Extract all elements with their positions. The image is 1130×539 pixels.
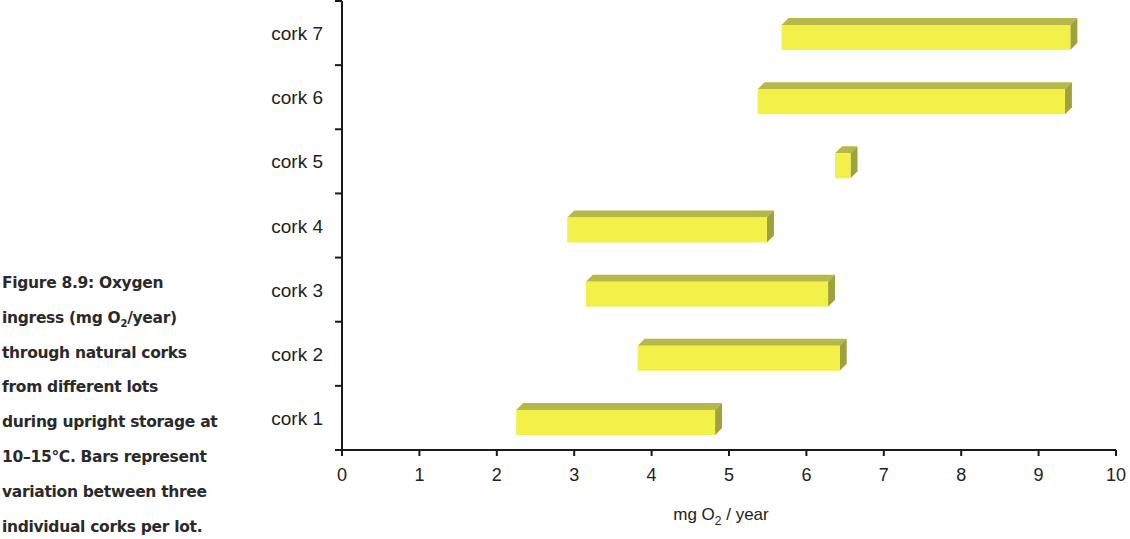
bar-cork-7 xyxy=(782,18,1078,50)
floating-bar-chart: 012345678910cork 1cork 2cork 3cork 4cork… xyxy=(0,0,1130,539)
x-tick-label: 3 xyxy=(569,465,579,485)
bar-front-face xyxy=(758,89,1065,114)
y-category-label: cork 1 xyxy=(271,408,323,429)
bar-cork-1 xyxy=(516,403,722,435)
bar-top-face xyxy=(586,275,835,282)
bar-front-face xyxy=(638,346,840,371)
bar-cork-4 xyxy=(567,211,774,243)
y-category-label: cork 7 xyxy=(271,23,323,44)
bar-cork-6 xyxy=(758,82,1072,114)
x-tick-label: 4 xyxy=(647,465,657,485)
x-tick-label: 7 xyxy=(879,465,889,485)
x-tick-label: 1 xyxy=(414,465,424,485)
bar-front-face xyxy=(782,25,1071,50)
x-tick-label: 5 xyxy=(724,465,734,485)
bar-top-face xyxy=(516,403,722,410)
y-category-label: cork 4 xyxy=(271,216,323,237)
x-tick-label: 10 xyxy=(1106,465,1126,485)
bar-top-face xyxy=(782,18,1078,25)
y-category-label: cork 3 xyxy=(271,280,323,301)
x-axis-title: mg O2 / year xyxy=(673,505,769,528)
bar-cork-3 xyxy=(586,275,835,307)
bar-cork-5 xyxy=(835,146,857,178)
x-tick-label: 8 xyxy=(956,465,966,485)
bar-top-face xyxy=(567,211,774,218)
y-category-label: cork 6 xyxy=(271,87,323,108)
x-tick-label: 2 xyxy=(492,465,502,485)
bar-front-face xyxy=(586,282,828,307)
y-category-label: cork 5 xyxy=(271,151,323,172)
x-tick-label: 0 xyxy=(337,465,347,485)
x-tick-label: 9 xyxy=(1034,465,1044,485)
x-tick-label: 6 xyxy=(801,465,811,485)
y-category-label: cork 2 xyxy=(271,344,323,365)
bar-cork-2 xyxy=(638,339,847,371)
bar-top-face xyxy=(638,339,847,346)
bars-layer xyxy=(516,18,1077,435)
bar-front-face xyxy=(835,153,850,178)
bar-front-face xyxy=(516,410,715,435)
bar-front-face xyxy=(567,218,767,243)
bar-top-face xyxy=(758,82,1072,89)
